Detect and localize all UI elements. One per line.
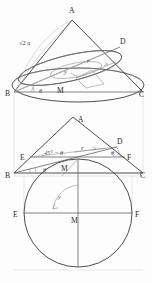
label-d-mid: D [117, 137, 123, 146]
angle-y-arc-bottom [53, 185, 78, 209]
panel-bottom-circle: E M F y [13, 159, 139, 267]
radius-line-r-mid [74, 148, 106, 152]
label-m-top: M [57, 86, 64, 95]
label-m-bottom: M [71, 216, 78, 225]
label-45-minus-theta: 45° − θ [44, 149, 63, 156]
angle-theta-arc-top [33, 86, 34, 92]
label-b-top: B [5, 89, 10, 98]
label-r-top: r [87, 57, 90, 64]
label-apex-a-top: A [69, 6, 75, 15]
angle-theta-tick-top [31, 87, 33, 92]
label-e-bottom: E [13, 210, 18, 219]
geometry-figure: A B C D M √2 a r θ y [0, 0, 152, 283]
label-y-top: y [63, 68, 67, 75]
label-r-mid: r [81, 144, 84, 151]
m-connector-b [76, 78, 86, 88]
label-f-bottom: F [135, 210, 139, 219]
figure-canvas: A B C D M √2 a r θ y [0, 0, 152, 283]
m-connector-c [92, 70, 104, 84]
label-theta-right-mid: θ [111, 149, 114, 156]
label-d-top: D [120, 37, 126, 46]
label-y-bottom: y [57, 193, 61, 200]
panel-middle-triangle: A B C E F D M r 45° − θ θ θ [5, 115, 145, 180]
cone-slant-right [72, 20, 143, 92]
label-e-mid: E [20, 153, 25, 162]
label-b-mid: B [5, 171, 10, 180]
label-c-mid: C [140, 171, 145, 180]
m-connector-a [76, 70, 92, 78]
label-slant-length: √2 a [19, 39, 30, 46]
label-apex-a-mid: A [78, 115, 84, 124]
angle-y-arc-top [71, 73, 78, 76]
m-connector-d [86, 84, 104, 88]
label-m-mid: M [61, 164, 68, 173]
label-f-mid: F [127, 153, 131, 162]
panel-top-cone: A B C D M √2 a r θ y [5, 6, 144, 102]
label-theta-top: θ [39, 87, 42, 94]
angle-theta-arc-mid [35, 168, 36, 174]
label-c-top: C [139, 90, 144, 99]
